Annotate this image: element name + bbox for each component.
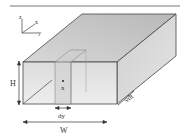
height-label: H: [10, 79, 16, 88]
point-label: x: [61, 84, 65, 92]
dy-arrow: [55, 107, 71, 110]
point-marker: [62, 80, 64, 82]
channel-diagram: z x y x H dy W vdt: [0, 0, 187, 139]
width-label: W: [60, 126, 68, 135]
axis-x-label: x: [35, 19, 38, 25]
height-arrow: [18, 61, 21, 105]
axis-z-label: z: [19, 14, 22, 20]
dy-label: dy: [58, 112, 66, 120]
width-arrow: [23, 121, 107, 124]
axis-y-label: y: [38, 30, 41, 36]
